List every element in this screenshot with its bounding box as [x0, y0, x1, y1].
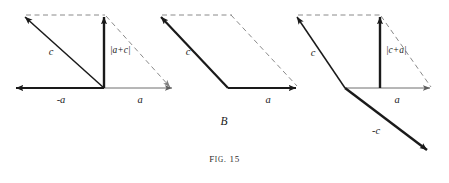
panel-c-group: c a -c |c+a| [297, 15, 431, 150]
panel-b-dashed-right [231, 15, 297, 86]
figure-caption: FIG. 15 [0, 154, 449, 164]
panel-a-vector-c [25, 17, 104, 88]
panel-b-letter: B [220, 115, 227, 127]
panel-a-label-c: c [49, 46, 54, 57]
panel-a-label-a: a [137, 94, 142, 105]
panel-c-label-a: a [394, 94, 399, 105]
caption-dot: . [224, 154, 227, 164]
panel-c-label-c: c [311, 47, 316, 58]
caption-fig-prefix-rest: IG [215, 156, 224, 164]
panel-c-label-minus-c: -c [372, 125, 380, 136]
panel-a-label-magnitude: |a+c| [110, 45, 131, 55]
panel-b-vector-c [161, 17, 228, 88]
panel-c-vector-c [297, 17, 345, 88]
panel-a-group: c -a a |a+c| [16, 15, 172, 105]
panel-b-label-c: c [186, 46, 191, 57]
panel-c-vector-minus-c [345, 88, 427, 150]
panel-c-label-magnitude: |c+a| [386, 45, 407, 55]
panel-b-label-a: a [265, 94, 270, 105]
panel-b-group: c a B [161, 15, 297, 127]
caption-number: 15 [230, 154, 240, 164]
figure-container: c -a a |a+c| c a B c a -c |c [0, 0, 449, 183]
panel-a-label-minus-a: -a [57, 94, 66, 105]
